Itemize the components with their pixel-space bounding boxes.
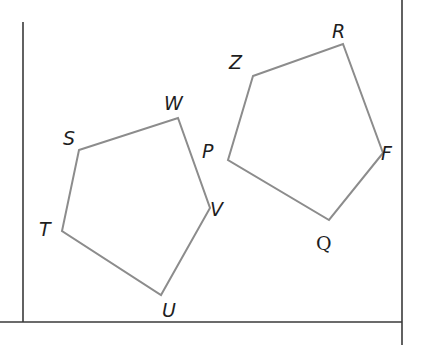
vertex-label-t: T	[39, 218, 52, 240]
vertex-label-u: U	[162, 299, 176, 321]
vertex-label-z: Z	[228, 51, 243, 73]
vertex-label-r: R	[332, 20, 345, 42]
pentagon-stuvw	[62, 118, 210, 295]
vertex-label-v: V	[210, 198, 225, 220]
vertex-label-w: W	[164, 92, 184, 114]
vertex-label-f: F	[381, 142, 393, 164]
pentagon-pzrfq	[228, 44, 383, 220]
pentagon-diagram: S W V U T Z R F Q P	[0, 0, 425, 345]
vertex-label-q: Q	[316, 232, 332, 254]
vertex-label-p: P	[202, 140, 214, 162]
vertex-label-s: S	[63, 127, 75, 149]
